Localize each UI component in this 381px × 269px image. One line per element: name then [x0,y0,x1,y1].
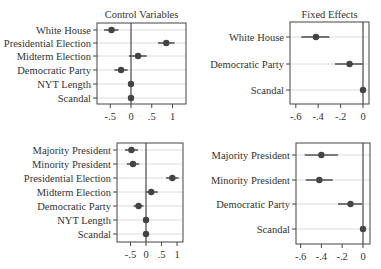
row-label: Democratic Party [17,65,92,76]
x-tick-label: 0 [128,111,133,122]
coefficient-point [313,34,319,40]
x-tick-label: 1 [170,111,175,122]
row-label: Democratic Party [210,59,285,70]
coefficient-point [143,231,149,237]
row-label: Presidential Election [4,38,92,49]
coefficient-point [169,175,175,181]
coefficient-plot-figure: Control VariablesWhite HousePresidential… [0,0,381,269]
coefficient-point [316,177,322,183]
x-tick-label: -.6 [295,251,306,262]
row-label: Presidential Election [24,173,112,184]
x-tick-label: -.2 [335,111,346,122]
x-tick-label: 0 [360,251,365,262]
coefficient-point [346,61,352,67]
coefficient-point [128,95,134,101]
row-label: NYT Length [37,79,92,90]
coefficient-point [135,203,141,209]
x-tick-label: -.2 [337,251,348,262]
coefficient-point [347,201,353,207]
coefficient-point [360,226,366,232]
x-tick-label: .5 [158,249,166,260]
row-label: Majority President [212,150,291,161]
row-label: Democratic Party [37,201,112,212]
row-label: Scandal [78,229,111,240]
coefficient-point [108,27,114,33]
coefficient-point [130,161,136,167]
coefficient-point [128,147,134,153]
x-tick-label: -.5 [125,249,136,260]
x-tick-label: .5 [148,111,156,122]
coefficient-point [148,189,154,195]
row-label: Scandal [251,85,284,96]
panel-bottom-right: Majority PresidentMinority PresidentDemo… [211,143,370,262]
row-label: White House [36,25,91,36]
row-label: White House [229,32,284,43]
plot-frame [97,23,186,104]
x-tick-label: -.6 [290,111,301,122]
row-label: Democratic Party [216,199,291,210]
row-label: Minority President [211,175,290,186]
row-label: NYT Length [57,215,112,226]
coefficient-point [360,87,366,93]
panel-top-left: Control VariablesWhite HousePresidential… [4,9,186,122]
x-tick-label: -.4 [316,251,328,262]
panel-top-right: Fixed EffectsWhite HouseDemocratic Party… [210,9,369,122]
x-tick-label: 0 [360,111,365,122]
coefficient-point [163,40,169,46]
x-tick-label: 0 [143,249,148,260]
x-tick-label: -.5 [105,111,116,122]
row-label: Scandal [257,224,290,235]
row-label: Midterm Election [17,51,92,62]
row-label: Majority President [33,145,112,156]
row-label: Scandal [58,93,91,104]
plot-frame [290,22,369,104]
x-tick-label: -.4 [313,111,325,122]
coefficient-point [128,81,134,87]
coefficient-point [135,53,141,59]
row-label: Midterm Election [37,187,112,198]
x-tick-label: 1 [174,249,179,260]
panel-title: Control Variables [105,9,179,20]
row-label: Minority President [32,159,111,170]
panel-bottom-left: Majority PresidentMinority PresidentPres… [24,143,183,260]
coefficient-point [143,217,149,223]
coefficient-point [118,67,124,73]
panel-title: Fixed Effects [301,9,357,20]
coefficient-point [318,152,324,158]
